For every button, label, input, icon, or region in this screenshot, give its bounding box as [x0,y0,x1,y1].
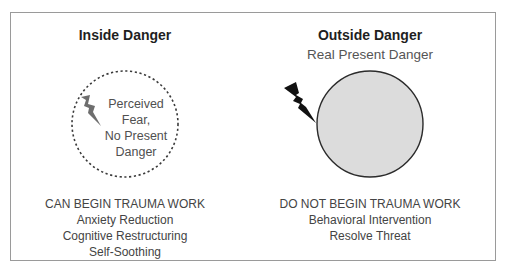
recommendation-item: Cognitive Restructuring [15,228,235,244]
recommendation-item: Self-Soothing [15,244,235,260]
circle-label-line: Perceived [96,96,176,112]
recommendation-heading: CAN BEGIN TRAUMA WORK [15,196,235,212]
outside-danger-recommendations: DO NOT BEGIN TRAUMA WORK Behavioral Inte… [260,196,480,244]
circle-label-line: Danger [96,144,176,160]
recommendation-heading: DO NOT BEGIN TRAUMA WORK [260,196,480,212]
inside-danger-title: Inside Danger [25,27,225,43]
recommendation-item: Behavioral Intervention [260,212,480,228]
outside-danger-title: Outside Danger [270,27,470,43]
outside-danger-circle [317,71,423,177]
circle-label-line: Fear, [96,112,176,128]
inside-danger-recommendations: CAN BEGIN TRAUMA WORK Anxiety Reduction … [15,196,235,260]
inside-danger-circle-label: Perceived Fear, No Present Danger [96,96,176,160]
circle-label-line: No Present [96,128,176,144]
recommendation-item: Anxiety Reduction [15,212,235,228]
outside-danger-subtitle: Real Present Danger [270,47,470,62]
recommendation-item: Resolve Threat [260,228,480,244]
lightning-bolt-black-icon [284,82,316,123]
